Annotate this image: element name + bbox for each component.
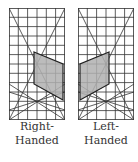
caption-line-2: Handed xyxy=(7,134,67,148)
right-handed-grid-diagram xyxy=(9,8,65,120)
caption-line-1: Right- xyxy=(7,120,67,134)
left-handed-caption: Left- Handed xyxy=(76,120,136,148)
shaded-quadrilateral xyxy=(34,52,63,100)
right-handed-caption: Right- Handed xyxy=(7,120,67,148)
left-handed-grid-diagram xyxy=(78,8,134,120)
caption-line-1: Left- xyxy=(76,120,136,134)
caption-line-2: Handed xyxy=(76,134,136,148)
left-handed-panel xyxy=(78,8,134,120)
shaded-quadrilateral xyxy=(80,52,109,100)
right-handed-panel xyxy=(9,8,65,120)
